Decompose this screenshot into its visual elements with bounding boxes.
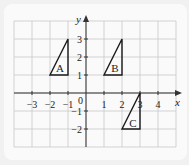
x-tick-label: 2 [120,99,125,110]
y-tick-label: 2 [77,52,82,63]
y-axis-label: y [75,13,81,25]
origin-label: 0 [78,95,83,106]
triangle-label-c: C [129,117,136,129]
x-tick-label: −3 [27,99,38,110]
triangle-label-a: A [56,62,64,74]
x-axis-label: x [174,96,180,108]
y-axis-arrow-icon [83,15,89,22]
x-tick-label: 4 [156,99,161,110]
y-tick-label: −2 [71,124,82,135]
y-tick-label: 3 [77,34,82,45]
x-tick-label: 1 [102,99,107,110]
y-tick-label: −1 [71,106,82,117]
y-tick-label: 1 [77,70,82,81]
x-tick-label: −2 [45,99,56,110]
triangle-label-b: B [111,62,118,74]
coordinate-grid: xy0−3−2−11234321−1−2ABC [0,0,189,165]
